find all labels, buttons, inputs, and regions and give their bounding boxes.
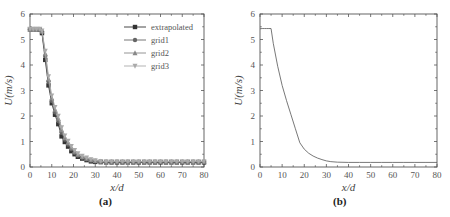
x-tick-label: 50 xyxy=(134,170,144,180)
chart-panel-a: 010203040506070800123456x/dU(m/s)extrapo… xyxy=(0,0,225,217)
legend-label: grid2 xyxy=(151,48,169,58)
series-grid3 xyxy=(28,27,207,164)
x-tick-label: 80 xyxy=(433,170,443,180)
y-axis-title: U(m/s) xyxy=(2,75,15,106)
x-tick-label: 0 xyxy=(258,170,263,180)
series-extrapolated xyxy=(28,27,206,165)
plot-frame xyxy=(30,14,204,167)
y-tick-label: 2 xyxy=(21,111,26,121)
series-line xyxy=(30,29,204,161)
square-marker xyxy=(133,25,137,29)
y-tick-label: 6 xyxy=(251,9,256,19)
y-tick-label: 6 xyxy=(21,9,26,19)
y-tick-label: 5 xyxy=(21,35,26,45)
x-tick-label: 0 xyxy=(28,170,33,180)
legend: extrapolatedgrid1grid2grid3 xyxy=(124,22,194,71)
x-tick-label: 20 xyxy=(300,170,310,180)
legend-label: grid1 xyxy=(151,35,169,45)
down-triangle-marker xyxy=(43,49,48,54)
circle-marker xyxy=(133,38,137,42)
plot-frame xyxy=(260,14,437,167)
x-tick-label: 60 xyxy=(156,170,166,180)
y-tick-label: 5 xyxy=(251,35,256,45)
series-line xyxy=(30,29,204,162)
caption-b: (b) xyxy=(333,195,346,207)
caption-a: (a) xyxy=(99,195,112,207)
x-tick-label: 30 xyxy=(91,170,101,180)
x-tick-label: 40 xyxy=(113,170,123,180)
x-axis-title: x/d xyxy=(341,181,356,193)
y-tick-label: 0 xyxy=(251,162,256,172)
x-tick-label: 80 xyxy=(200,170,210,180)
x-tick-label: 40 xyxy=(344,170,354,180)
x-tick-label: 70 xyxy=(410,170,420,180)
y-tick-label: 4 xyxy=(21,60,26,70)
legend-label: grid3 xyxy=(151,61,169,71)
line-chart-a: 010203040506070800123456x/dU(m/s)extrapo… xyxy=(0,0,225,217)
y-tick-label: 0 xyxy=(21,162,26,172)
x-tick-label: 10 xyxy=(278,170,288,180)
x-tick-label: 70 xyxy=(178,170,188,180)
x-tick-label: 60 xyxy=(388,170,398,180)
x-tick-label: 30 xyxy=(322,170,332,180)
series-line xyxy=(30,29,204,161)
line-chart-b: 010203040506070800123456x/dU(m/s) xyxy=(225,0,450,217)
y-tick-label: 4 xyxy=(251,60,256,70)
chart-panel-b: 010203040506070800123456x/dU(m/s) (b) xyxy=(225,0,450,217)
y-tick-label: 3 xyxy=(21,86,26,96)
x-tick-label: 20 xyxy=(69,170,79,180)
series-grid1 xyxy=(28,27,206,164)
series-line xyxy=(260,29,437,163)
series-U xyxy=(260,29,437,163)
y-axis-title: U(m/s) xyxy=(232,75,245,106)
y-tick-label: 1 xyxy=(21,137,26,147)
x-tick-label: 50 xyxy=(366,170,376,180)
x-axis-title: x/d xyxy=(109,181,124,193)
y-tick-label: 2 xyxy=(251,111,256,121)
x-tick-label: 10 xyxy=(47,170,57,180)
series-grid2 xyxy=(28,27,207,164)
down-triangle-marker xyxy=(46,74,51,79)
y-tick-label: 3 xyxy=(251,86,256,96)
y-tick-label: 1 xyxy=(251,137,256,147)
series-line xyxy=(30,29,204,162)
legend-label: extrapolated xyxy=(151,22,194,32)
